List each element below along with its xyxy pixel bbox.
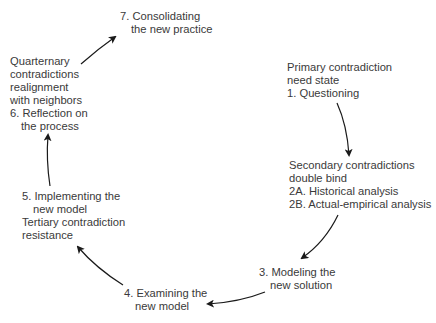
step-2-analysis: Secondary contradictions double bind 2A.… <box>289 159 431 211</box>
node-line: the process <box>10 120 88 133</box>
arrow-4-to-5 <box>78 247 123 285</box>
step-3-modeling: 3. Modeling the new solution <box>259 266 336 292</box>
arrow-3-to-4 <box>208 292 265 304</box>
node-line: 6. Reflection on <box>10 107 88 120</box>
step-5-implementing: 5. Implementing the new model Tertiary c… <box>22 190 125 242</box>
node-line: Primary contradiction <box>287 61 392 74</box>
node-line: Secondary contradictions <box>289 159 431 172</box>
node-line: realignment <box>10 81 88 94</box>
node-line: need state <box>287 74 392 87</box>
node-line: 2B. Actual-empirical analysis <box>289 198 431 211</box>
node-line: double bind <box>289 172 431 185</box>
arrow-1-to-2 <box>337 103 349 155</box>
node-line: the new practice <box>120 23 212 36</box>
node-line: 5. Implementing the <box>22 190 125 203</box>
node-line: new model <box>22 203 125 216</box>
arrow-2-to-3 <box>302 215 338 258</box>
step-7-consolidating: 7. Consolidating the new practice <box>120 10 212 36</box>
node-line: 7. Consolidating <box>120 10 212 23</box>
step-6-reflection: Quarternary contradictions realignment w… <box>10 55 88 133</box>
node-line: new solution <box>259 279 336 292</box>
arrow-5-to-6 <box>47 135 50 186</box>
node-line: 4. Examining the <box>124 287 207 300</box>
node-line: contradictions <box>10 68 88 81</box>
node-line: new model <box>124 300 207 313</box>
node-line: Quarternary <box>10 55 88 68</box>
step-4-examining: 4. Examining the new model <box>124 287 207 313</box>
node-line: 2A. Historical analysis <box>289 185 431 198</box>
node-line: Tertiary contradiction <box>22 216 125 229</box>
node-line: with neighbors <box>10 94 88 107</box>
node-line: 3. Modeling the <box>259 266 336 279</box>
node-line: 1. Questioning <box>287 87 392 100</box>
node-line: resistance <box>22 229 125 242</box>
step-1-questioning: Primary contradiction need state 1. Ques… <box>287 61 392 100</box>
